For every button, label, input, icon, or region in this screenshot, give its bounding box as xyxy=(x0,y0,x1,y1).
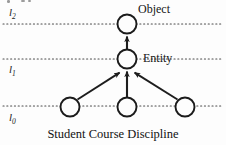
scan-artifact-top-right xyxy=(28,0,31,2)
nodes xyxy=(61,15,195,117)
level-label-l0: l0 xyxy=(9,112,16,126)
node-student[interactable] xyxy=(61,98,80,117)
level-label-l2: l2 xyxy=(9,7,16,21)
node-object[interactable] xyxy=(118,15,137,34)
node-label-entity: Entity xyxy=(143,52,172,64)
level-label-l0-subscript: 0 xyxy=(12,117,16,126)
level-label-l2-subscript: 2 xyxy=(12,12,16,21)
figure-caption: Student Course Discipline xyxy=(0,128,226,141)
node-label-object: Object xyxy=(138,3,170,15)
node-entity[interactable] xyxy=(118,50,137,69)
level-label-l1: l1 xyxy=(9,64,16,78)
level-label-l1-subscript: 1 xyxy=(12,69,16,78)
edge-student-to-entity xyxy=(78,73,120,100)
level-lines xyxy=(3,24,223,106)
node-discipline[interactable] xyxy=(176,98,195,117)
scan-artifact-top-left xyxy=(7,0,10,3)
lattice-diagram xyxy=(0,0,226,145)
edge-discipline-to-entity xyxy=(135,73,178,100)
node-course[interactable] xyxy=(118,98,137,117)
scan-artifact-top-mid xyxy=(21,0,25,2)
figure-canvas: l2 l1 l0 Object Entity Student Course Di… xyxy=(0,0,226,145)
